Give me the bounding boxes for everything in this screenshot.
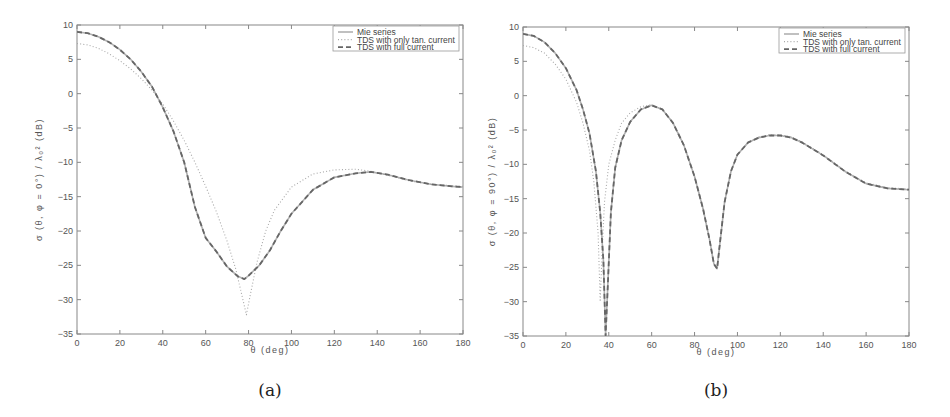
legend: Mie seriesTDS with only tan. currentTDS … [333,26,459,52]
series-dashed-line [523,34,909,336]
figure-canvas: 0204060801001201401601801050−5−10−15−20−… [0,0,950,417]
legend-label: TDS with full current [357,42,434,52]
figure-caption: (a) [258,380,281,400]
y-tick-label: −15 [504,194,519,204]
y-tick-label: −25 [58,260,73,270]
x-tick-label: 0 [74,338,79,348]
y-tick-label: 5 [514,56,519,66]
series-solid-line [523,34,909,336]
y-axis-label: σ (θ, φ = 90°) / λ₀² (dB) [487,117,497,247]
y-tick-label: 0 [514,91,519,101]
x-tick-label: 60 [201,338,211,348]
x-tick-label: 140 [370,338,385,348]
y-tick-label: −20 [504,228,519,238]
y-tick-label: −35 [58,329,73,339]
y-tick-label: −5 [63,123,73,133]
x-tick-label: 180 [901,340,916,350]
y-tick-label: −25 [504,262,519,272]
y-tick-label: 5 [68,54,73,64]
chart-b: 0204060801001201401601801050−5−10−15−20−… [487,22,917,400]
y-tick-label: 10 [509,22,519,32]
x-tick-label: 40 [604,340,614,350]
y-tick-label: 10 [63,20,73,30]
legend-label: TDS with full current [803,44,880,54]
x-tick-label: 160 [859,340,874,350]
x-axis-label: θ (deg) [696,347,735,357]
x-tick-label: 40 [158,338,168,348]
x-tick-label: 120 [773,340,788,350]
x-tick-label: 20 [561,340,571,350]
x-tick-label: 180 [455,338,470,348]
y-tick-label: −10 [504,159,519,169]
x-tick-label: 60 [647,340,657,350]
y-axis-label: σ (θ, φ = 0°) / λ₀² (dB) [34,118,44,241]
figure-caption: (b) [704,380,728,400]
series-solid-line [77,32,463,279]
x-tick-label: 0 [520,340,525,350]
legend: Mie seriesTDS with only tan. currentTDS … [779,28,905,54]
x-tick-label: 140 [816,340,831,350]
x-tick-label: 160 [413,338,428,348]
y-tick-label: −10 [58,157,73,167]
plot-area-frame [523,27,909,336]
y-tick-label: −5 [509,125,519,135]
x-tick-label: 20 [115,338,125,348]
x-tick-label: 120 [327,338,342,348]
y-tick-label: −30 [58,295,73,305]
y-tick-label: 0 [68,89,73,99]
y-tick-label: −30 [504,297,519,307]
y-tick-label: −20 [58,226,73,236]
series-dotted-line [523,46,909,302]
y-tick-label: −35 [504,331,519,341]
x-axis-label: θ (deg) [250,345,289,355]
chart-a: 0204060801001201401601801050−5−10−15−20−… [34,20,471,400]
y-tick-label: −15 [58,192,73,202]
series-dashed-line [77,32,463,279]
